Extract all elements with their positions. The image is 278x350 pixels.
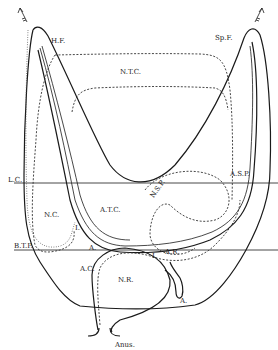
label-nsp: N.S.P. [149, 178, 167, 199]
label-nc: N.C. [44, 211, 59, 219]
anus-opening [88, 328, 120, 336]
label-ac: A.C. [79, 265, 95, 273]
label-a-right: A. [179, 297, 187, 305]
label-asp: A.S.P. [229, 170, 250, 178]
diagram-canvas: H.F. Sp.F. N.T.C. L.C. N.C. A.T.C. N.S.P… [0, 0, 278, 350]
inner-fold-left [38, 42, 257, 253]
body-outline [24, 29, 271, 309]
label-a-left: A. [88, 244, 96, 252]
label-btp: B.T.P. [14, 242, 33, 250]
ntc-region [32, 54, 232, 252]
label-lc: L.C. [8, 176, 22, 184]
label-nr: N.R. [118, 276, 133, 284]
label-hf: H.F. [51, 37, 65, 45]
ntc-inner-region [72, 87, 228, 113]
label-spf: Sp.F. [215, 34, 233, 42]
label-i-mid: I. [152, 252, 157, 260]
nr-tube [92, 248, 170, 332]
inner-fold-left-2 [40, 46, 253, 246]
label-ntc: N.T.C. [120, 68, 141, 76]
label-anus: Anus. [114, 341, 135, 349]
arrow-up-right-icon [255, 8, 264, 22]
label-ar: A.R. [164, 248, 180, 256]
arrow-up-left-icon [18, 8, 27, 22]
label-i-left: I. [75, 224, 80, 232]
label-atc: A.T.C. [99, 206, 120, 214]
